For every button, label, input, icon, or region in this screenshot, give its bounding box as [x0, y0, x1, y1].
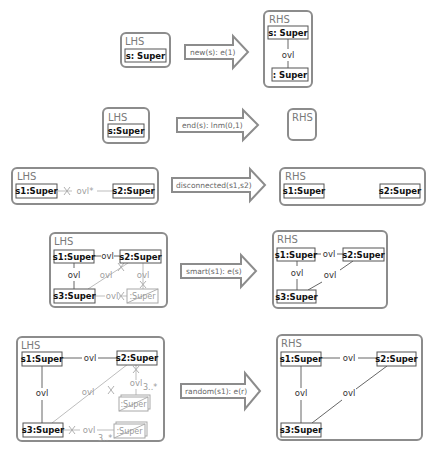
node-label: s2:Super: [116, 353, 159, 363]
node-label: s1:Super: [275, 250, 318, 260]
negative-edge-label: ovl: [100, 270, 113, 280]
negative-node-label: :Super: [129, 292, 156, 301]
edge-label: ovl: [36, 388, 49, 398]
edge-label: ovl: [343, 388, 356, 398]
node-label: s3:Super: [22, 425, 65, 435]
rhs-label: RHS: [281, 338, 302, 349]
multiplicity-label: 3..*: [143, 383, 157, 392]
rule-random-lhs: LHS ovl ovl ovl ovl 3..* ovl 3..*: [17, 337, 164, 443]
node-label: s2:Super: [112, 186, 155, 196]
node-label: s3:Super: [280, 425, 323, 435]
operator-label: smart(s1): e(s): [186, 267, 242, 276]
negative-edge-label: ovl: [130, 378, 143, 388]
node-label: s1:Super: [280, 354, 323, 364]
lhs-label: LHS: [21, 340, 40, 351]
edge-label: ovl: [323, 249, 336, 259]
edge-label: ovl: [343, 353, 356, 363]
multiplicity-label: 3..*: [98, 434, 112, 443]
rhs-label: RHS: [285, 171, 306, 182]
rule-smart-rhs: RHS ovl ovl ovl s1:Super s2:Super s3:Sup…: [273, 231, 387, 308]
rule-diagram: LHS s: Super new(s): e(1) RHS s: Super o…: [0, 0, 437, 454]
node-label: s3:Super: [275, 292, 318, 302]
rule-smart: LHS ovl ovl ovl ovl ovl s1:Super: [50, 231, 387, 308]
negative-node-label: :Super: [116, 427, 143, 436]
edge-label: ovl: [84, 353, 97, 363]
node-label: s2:Super: [375, 354, 418, 364]
rule-new-lhs: LHS s: Super: [121, 33, 170, 67]
rule-random-rhs: RHS ovl ovl ovl s1:Super s2:Super s3:Sup…: [277, 335, 422, 440]
rule-disconnected-arrow: disconnected(s1,s2): [172, 169, 265, 201]
rule-new: LHS s: Super new(s): e(1) RHS s: Super o…: [121, 11, 312, 87]
node-label: s: Super: [268, 28, 308, 38]
rhs-label: RHS: [292, 112, 313, 123]
lhs-label: LHS: [108, 112, 127, 123]
lhs-label: LHS: [54, 236, 73, 247]
operator-label: disconnected(s1,s2): [176, 181, 252, 190]
negative-edge-label: ovl: [82, 387, 95, 397]
edge-label: ovl: [68, 270, 81, 280]
rule-random: LHS ovl ovl ovl ovl 3..* ovl 3..*: [17, 335, 422, 443]
node-label: s1:Super: [53, 252, 96, 262]
rule-smart-arrow: smart(s1): e(s): [181, 255, 256, 287]
rhs-label: RHS: [277, 234, 298, 245]
rule-end: LHS s:Super end(s): lnm(0,1) RHS: [103, 108, 316, 143]
node-label: s1:Super: [21, 354, 64, 364]
node-label: s2:Super: [342, 250, 385, 260]
lhs-label: LHS: [17, 171, 36, 182]
lhs-label: LHS: [125, 36, 144, 47]
node-label: s3:Super: [53, 291, 96, 301]
node-label: s2:Super: [379, 186, 422, 196]
edge-label: ovl: [291, 268, 304, 278]
rule-disconnected: LHS s1:Super ovl* s2:Super disconnected(…: [12, 168, 425, 205]
rule-new-arrow: new(s): e(1): [185, 36, 248, 68]
rule-disconnected-lhs: LHS s1:Super ovl* s2:Super: [12, 168, 158, 204]
rule-new-rhs: RHS s: Super ovl : Super: [264, 11, 312, 87]
negative-edge-label: ovl: [83, 425, 96, 435]
negative-edge-label: ovl*: [77, 186, 94, 196]
rule-disconnected-rhs: RHS s1:Super s2:Super: [280, 168, 425, 205]
rule-end-rhs: RHS: [288, 109, 316, 140]
operator-label: end(s): lnm(0,1): [182, 121, 243, 130]
operator-label: random(s1): e(r): [185, 387, 247, 396]
negative-edge-label: ovl: [137, 270, 150, 280]
rule-random-arrow: random(s1): e(r): [181, 373, 260, 409]
node-label: : Super: [273, 70, 308, 80]
node-label: s1:Super: [283, 186, 326, 196]
negative-node-label: :Super: [120, 400, 147, 409]
node-label: s1:Super: [15, 186, 58, 196]
negative-edge-label: ovl: [106, 291, 119, 301]
operator-label: new(s): e(1): [190, 48, 235, 57]
node-label: s:Super: [108, 126, 145, 136]
rhs-label: RHS: [269, 14, 290, 25]
rule-end-arrow: end(s): lnm(0,1): [177, 110, 258, 140]
edge-label: ovl: [324, 270, 337, 280]
rule-end-lhs: LHS s:Super: [103, 108, 149, 143]
edge-label: ovl: [101, 251, 114, 261]
node-label: s2:Super: [119, 252, 162, 262]
node-label: s: Super: [126, 51, 166, 61]
edge-label: ovl: [282, 50, 295, 60]
edge-label: ovl: [295, 388, 308, 398]
rule-smart-lhs: LHS ovl ovl ovl ovl ovl s1:Super: [50, 233, 167, 307]
